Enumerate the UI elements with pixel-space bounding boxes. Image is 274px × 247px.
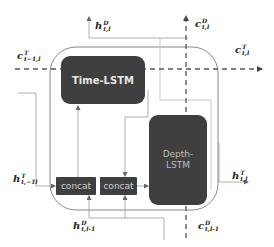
concat-right-block: concat: [100, 177, 137, 195]
label-h-depth-out: hDt,l: [95, 20, 110, 32]
time-lstm-label: Time-LSTM: [72, 75, 134, 86]
label-c-time-out: cTt,l: [235, 44, 249, 56]
depth-lstm-label-line2: LSTM: [166, 160, 190, 171]
depth-lstm-block: Depth- LSTM: [149, 115, 207, 205]
label-h-time-in: hTt,−1l: [13, 173, 38, 185]
concat-left-label: concat: [61, 181, 91, 191]
label-h-depth-in: hDt,l-1: [73, 220, 95, 232]
concat-right-label: concat: [103, 181, 133, 191]
depth-lstm-label-line1: Depth-: [163, 149, 194, 160]
label-h-time-out: hTt,l: [232, 170, 247, 182]
label-c-depth-out: cDt,l: [195, 18, 209, 30]
time-lstm-block: Time-LSTM: [61, 56, 145, 104]
label-c-depth-in: cDt,l-1: [198, 220, 219, 232]
concat-left-block: concat: [56, 177, 96, 195]
diagram-canvas: [0, 0, 274, 247]
label-c-time-in: cTt−1,l: [17, 50, 40, 62]
